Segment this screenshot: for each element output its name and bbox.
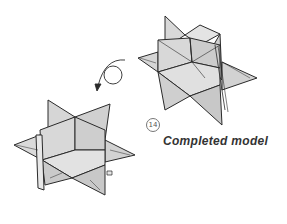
- caption-completed-model: Completed model: [163, 134, 268, 148]
- rotation-arrow-icon: [95, 60, 125, 91]
- model-rotated-view: [14, 100, 135, 195]
- model-front-view: [138, 16, 257, 125]
- step-number-badge: 14: [146, 118, 160, 132]
- diagram-canvas: [0, 0, 287, 224]
